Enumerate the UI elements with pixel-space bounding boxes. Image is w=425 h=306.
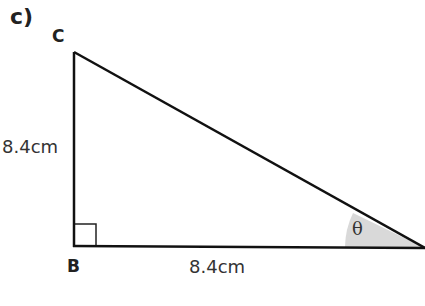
- side-CA: [74, 52, 425, 248]
- right-angle-marker: [74, 224, 96, 246]
- side-ba-length-label: 8.4cm: [189, 256, 245, 277]
- question-part-label: c): [10, 4, 33, 29]
- angle-theta-label: θ: [352, 218, 363, 239]
- vertex-label-c: C: [52, 26, 64, 46]
- side-cb-length-label: 8.4cm: [2, 136, 58, 157]
- vertex-label-b: B: [67, 256, 80, 276]
